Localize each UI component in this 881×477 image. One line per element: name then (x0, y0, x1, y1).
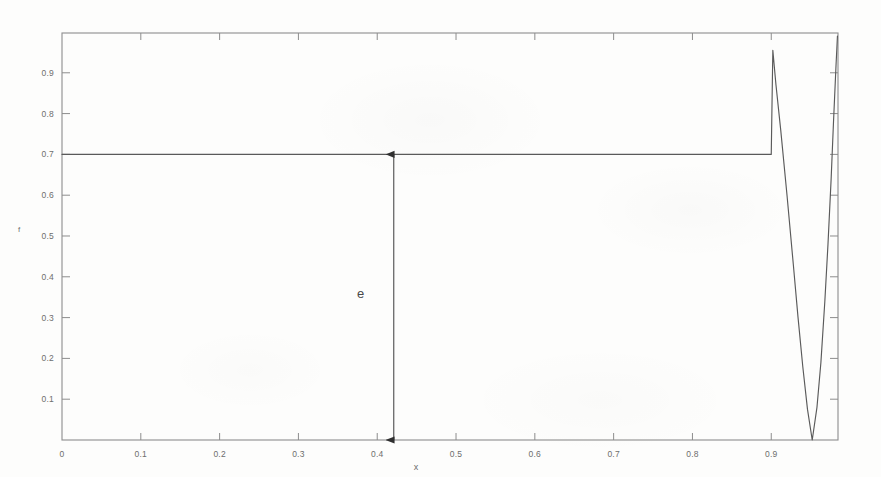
x-tick-label: 0.6 (526, 449, 544, 459)
y-tick-label: 0.8 (24, 109, 54, 119)
axis-frame (62, 33, 838, 440)
y-tick-label: 0.3 (24, 313, 54, 323)
plot-frame-rect (62, 33, 838, 440)
x-tick-label: 0.1 (132, 449, 150, 459)
x-tick-label: 0.9 (762, 449, 780, 459)
axis-ticks (62, 33, 838, 440)
x-tick-label: 0.3 (289, 449, 307, 459)
x-tick-label: 0.5 (447, 449, 465, 459)
plot-canvas (0, 0, 881, 477)
figure-container: 00.10.20.30.40.50.60.70.80.9 0.10.20.30.… (0, 0, 881, 477)
y-tick-label: 0.9 (24, 68, 54, 78)
y-tick-label: 0.5 (24, 231, 54, 241)
x-tick-label: 0.7 (605, 449, 623, 459)
x-axis-title: x (414, 462, 419, 472)
y-tick-label: 0.4 (24, 272, 54, 282)
x-tick-label: 0.8 (683, 449, 701, 459)
y-tick-label: 0.6 (24, 190, 54, 200)
error-arrow-label: e (357, 286, 364, 301)
y-tick-label: 0.1 (24, 394, 54, 404)
y-tick-label: 0.7 (24, 149, 54, 159)
data-series-line (62, 36, 837, 440)
y-axis-title: f (18, 225, 20, 234)
x-tick-label: 0.4 (368, 449, 386, 459)
x-tick-label: 0.2 (211, 449, 229, 459)
x-tick-label: 0 (53, 449, 71, 459)
y-tick-label: 0.2 (24, 353, 54, 363)
